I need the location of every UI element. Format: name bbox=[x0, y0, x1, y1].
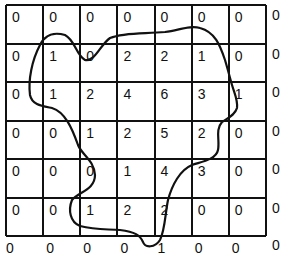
contour-path bbox=[29, 27, 237, 246]
contour-outline bbox=[0, 0, 284, 257]
